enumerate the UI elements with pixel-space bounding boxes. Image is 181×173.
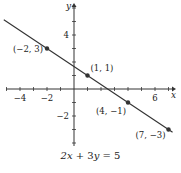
data-point — [85, 73, 89, 77]
y-axis-label: y — [65, 1, 72, 11]
point-label: (−2, 3) — [13, 44, 43, 54]
point-label: (7, −3) — [136, 130, 166, 140]
data-point — [166, 127, 170, 131]
data-point — [45, 46, 49, 50]
x-axis-label: x — [171, 90, 176, 100]
x-tick-label: 6 — [152, 93, 157, 103]
point-label: (1, 1) — [91, 63, 114, 73]
cartesian-plot: −4−264−2 (−2, 3)(1, 1)(4, −1)(7, −3) xy — [0, 0, 181, 173]
labeled-points: (−2, 3)(1, 1)(4, −1)(7, −3) — [13, 44, 171, 140]
axis-names: xy — [65, 1, 176, 100]
data-point — [126, 100, 130, 104]
y-axis-arrow-icon — [72, 3, 77, 7]
axes — [6, 3, 176, 146]
x-tick-label: −2 — [41, 93, 54, 103]
y-tick-label: 4 — [64, 30, 69, 40]
x-tick-label: −4 — [14, 93, 27, 103]
y-tick-label: −2 — [56, 111, 69, 121]
point-label: (4, −1) — [96, 106, 126, 116]
equation-caption: 2x + 3y = 5 — [0, 150, 181, 161]
